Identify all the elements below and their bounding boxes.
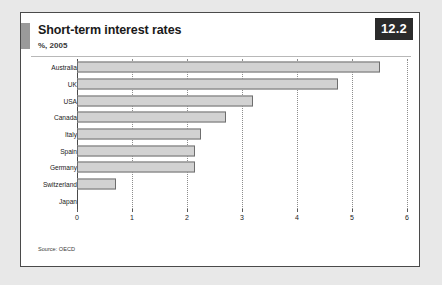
bar <box>77 145 195 156</box>
gridline <box>407 59 408 211</box>
bar <box>77 179 116 190</box>
category-label: Switzerland <box>31 181 77 188</box>
category-label: UK <box>31 81 77 88</box>
axis-tick-mark <box>187 209 188 212</box>
axis-tick-mark <box>132 209 133 212</box>
category-label: Australia <box>31 64 77 71</box>
bar <box>77 129 201 140</box>
bar <box>77 162 195 173</box>
category-axis: AustraliaUKUSACanadaItalySpainGermanySwi… <box>31 59 77 209</box>
category-label: Germany <box>31 164 77 171</box>
plot-wrapper: AustraliaUKUSACanadaItalySpainGermanySwi… <box>21 59 421 239</box>
title-divider <box>31 56 411 57</box>
chart-subtitle: %, 2005 <box>38 41 67 50</box>
chart-title: Short-term interest rates <box>38 23 181 37</box>
category-label: Italy <box>31 131 77 138</box>
axis-tick-label: 5 <box>350 214 354 221</box>
figure-number-badge: 12.2 <box>375 18 413 40</box>
axis-tick-label: 3 <box>240 214 244 221</box>
category-label: Japan <box>31 197 77 204</box>
bar <box>77 112 226 123</box>
value-axis-ticks: 0123456 <box>77 209 407 229</box>
category-label: Spain <box>31 147 77 154</box>
axis-tick-mark <box>77 209 78 212</box>
plot-area <box>77 59 407 209</box>
bar <box>77 95 253 106</box>
axis-tick-mark <box>407 209 408 212</box>
gridline <box>352 59 353 211</box>
bar <box>77 62 380 73</box>
figure-card: 12.2 Short-term interest rates %, 2005 A… <box>20 12 420 267</box>
axis-tick-label: 4 <box>295 214 299 221</box>
axis-tick-label: 6 <box>405 214 409 221</box>
axis-tick-label: 1 <box>130 214 134 221</box>
bar <box>77 79 338 90</box>
accent-tab <box>21 23 30 49</box>
category-label: Canada <box>31 114 77 121</box>
axis-tick-label: 2 <box>185 214 189 221</box>
axis-tick-mark <box>242 209 243 212</box>
axis-tick-label: 0 <box>75 214 79 221</box>
axis-tick-mark <box>352 209 353 212</box>
axis-tick-mark <box>297 209 298 212</box>
category-label: USA <box>31 97 77 104</box>
source-note: Source: OECD <box>38 246 75 252</box>
